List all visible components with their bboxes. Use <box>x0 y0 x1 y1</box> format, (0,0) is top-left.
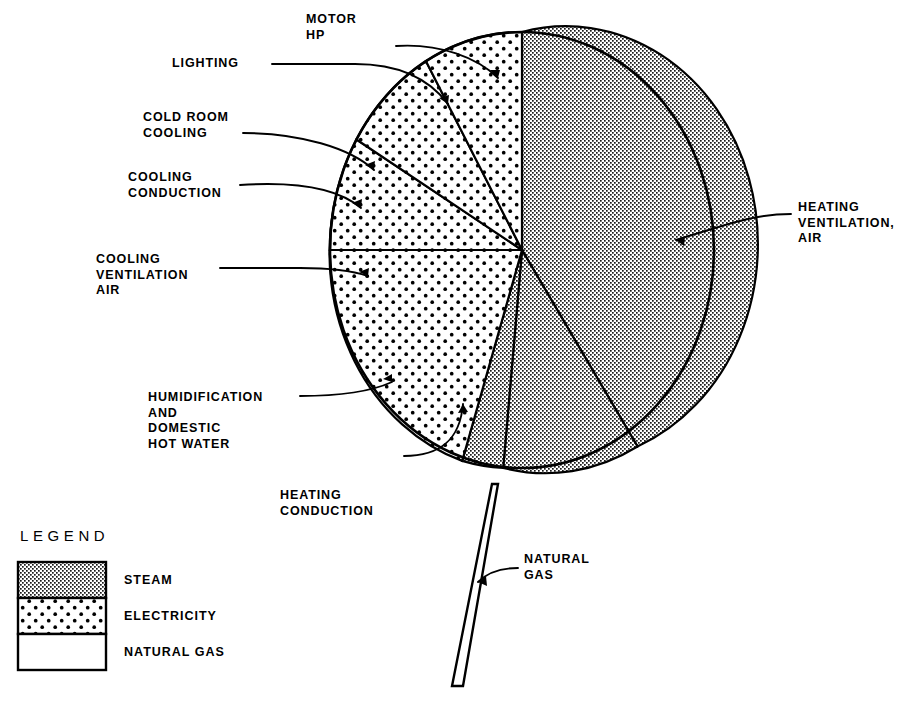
callout-label-cooling-ventilation-air: COOLING VENTILATION AIR <box>96 252 188 299</box>
pie-chart-figure: MOTOR HP LIGHTING COLD ROOM COOLING COOL… <box>0 0 913 708</box>
legend-swatches <box>18 562 106 670</box>
callout-label-motor-hp: MOTOR HP <box>306 12 357 43</box>
callout-label-heating-ventilation-air: HEATING VENTILATION, AIR <box>798 200 895 247</box>
callout-label-lighting: LIGHTING <box>172 56 239 72</box>
callout-label-cooling-conduction: COOLING CONDUCTION <box>128 170 222 201</box>
legend-title: LEGEND <box>20 527 109 544</box>
slice-natural-gas-exploded[interactable] <box>452 484 498 686</box>
callout-label-humidification: HUMIDIFICATION AND DOMESTIC HOT WATER <box>148 390 263 452</box>
callout-label-heating-conduction: HEATING CONDUCTION <box>280 488 374 519</box>
legend-item-label-natural-gas: NATURAL GAS <box>124 645 225 659</box>
callout-label-natural-gas: NATURAL GAS <box>524 552 590 583</box>
steam-swatch <box>18 562 106 598</box>
legend-item-label-electricity: ELECTRICITY <box>124 609 217 623</box>
electricity-swatch <box>18 598 106 634</box>
pie-chart-svg <box>0 0 913 708</box>
natural-gas-swatch <box>18 634 106 670</box>
legend-item-label-steam: STEAM <box>124 573 173 587</box>
callout-label-cold-room-cooling: COLD ROOM COOLING <box>143 110 229 141</box>
pie-slices <box>330 26 758 473</box>
